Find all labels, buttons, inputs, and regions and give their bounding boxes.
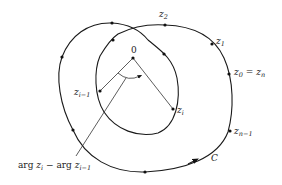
ray-to-zi xyxy=(133,58,173,109)
dot-z2 xyxy=(163,23,166,26)
ray-to-zi-minus-1 xyxy=(100,58,133,91)
dot-top-left xyxy=(110,21,113,24)
label-z2: z2 xyxy=(158,9,168,21)
label-zi-minus-1: zi−1 xyxy=(73,87,90,99)
curve-label-c: C xyxy=(211,153,218,163)
dot-zi-minus-1 xyxy=(98,89,101,92)
curve-c-inner-loop xyxy=(96,25,178,135)
angle-annotation: arg zi − arg zi−1 xyxy=(18,160,91,172)
dot-zi xyxy=(171,107,174,110)
origin-dot xyxy=(131,56,134,59)
dot-inner-top-left xyxy=(111,38,114,41)
label-zi: zi xyxy=(176,105,184,117)
dot-left-upper xyxy=(60,55,63,58)
dot-z1 xyxy=(210,42,213,45)
dot-z0 xyxy=(227,72,230,75)
dot-zn-minus-1 xyxy=(228,129,231,132)
angle-arc xyxy=(118,73,140,78)
label-z0-equals-zn: z0 = zn xyxy=(233,67,265,79)
dot-left-lower xyxy=(71,128,74,131)
origin-label: 0 xyxy=(131,45,137,55)
label-zn-minus-1: zn−1 xyxy=(233,126,253,138)
dot-bottom xyxy=(143,170,146,173)
dot-inner-right xyxy=(162,52,165,55)
contour-diagram: 0 z2 z1 z0 = zn zi−1 zi zn−1 C arg zi − … xyxy=(0,0,282,185)
